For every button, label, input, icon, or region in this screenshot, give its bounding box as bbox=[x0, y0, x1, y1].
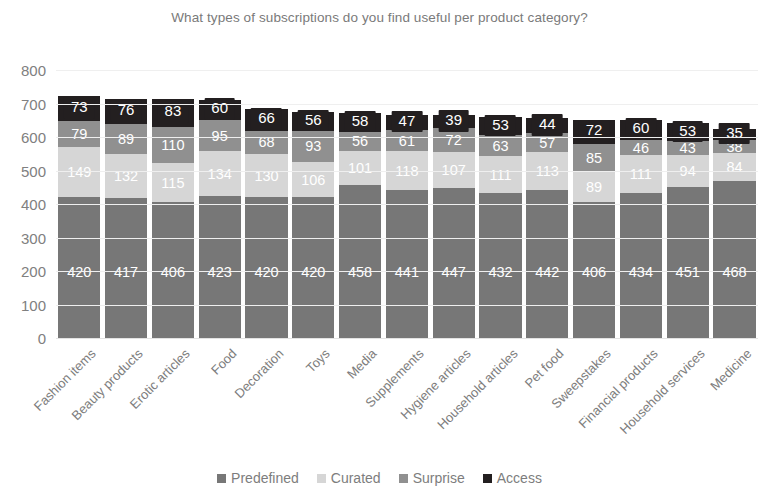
bar-value-label: 134 bbox=[208, 166, 232, 182]
bar-value-label: 79 bbox=[71, 126, 87, 142]
bar-segment-predefined[interactable]: 432 bbox=[479, 193, 521, 338]
bar-segment-curated[interactable]: 106 bbox=[292, 162, 334, 198]
legend-swatch-icon bbox=[399, 474, 408, 483]
bar-segment-surprise[interactable]: 79 bbox=[58, 121, 100, 147]
bar-segment-access[interactable]: 60 bbox=[199, 100, 241, 120]
bar-segment-curated[interactable]: 149 bbox=[58, 147, 100, 197]
legend-label: Access bbox=[497, 470, 542, 486]
bar-value-label: 111 bbox=[489, 167, 511, 183]
y-axis-tick-600: 600 bbox=[21, 129, 46, 146]
bar-value-label: 72 bbox=[446, 132, 462, 148]
bar-segment-predefined[interactable]: 406 bbox=[152, 202, 194, 338]
bar-value-label: 66 bbox=[251, 108, 282, 130]
bar-segment-access[interactable]: 35 bbox=[713, 129, 755, 141]
x-axis-label: Household articles bbox=[434, 346, 520, 432]
y-axis-tick-0: 0 bbox=[38, 330, 46, 347]
legend-item[interactable]: Access bbox=[483, 470, 542, 486]
y-axis-tick-500: 500 bbox=[21, 162, 46, 179]
axis-baseline bbox=[56, 338, 758, 339]
bar-segment-access[interactable]: 47 bbox=[386, 115, 428, 131]
bar-segment-access[interactable]: 58 bbox=[339, 113, 381, 132]
bar-segment-curated[interactable]: 101 bbox=[339, 151, 381, 185]
bar-segment-surprise[interactable]: 93 bbox=[292, 131, 334, 162]
bar-segment-predefined[interactable]: 447 bbox=[433, 188, 475, 338]
bar-segment-surprise[interactable]: 89 bbox=[105, 124, 147, 154]
bar-segment-surprise[interactable]: 85 bbox=[573, 144, 615, 172]
bar-segment-predefined[interactable]: 420 bbox=[58, 197, 100, 338]
legend-item[interactable]: Curated bbox=[317, 470, 381, 486]
bar-value-label: 420 bbox=[301, 264, 325, 280]
bar-segment-access[interactable]: 53 bbox=[667, 123, 709, 141]
bar-segment-predefined[interactable]: 458 bbox=[339, 185, 381, 338]
bar-value-label: 53 bbox=[485, 115, 516, 137]
bar-segment-access[interactable]: 73 bbox=[58, 96, 100, 120]
bar-value-label: 44 bbox=[532, 114, 563, 136]
bar-segment-curated[interactable]: 84 bbox=[713, 153, 755, 181]
bar-segment-access[interactable]: 72 bbox=[573, 120, 615, 144]
bar-segment-surprise[interactable]: 63 bbox=[479, 135, 521, 156]
legend-swatch-icon bbox=[317, 474, 326, 483]
bar-value-label: 115 bbox=[161, 175, 184, 191]
bar-segment-curated[interactable]: 130 bbox=[245, 154, 287, 198]
x-axis-label: Pet food bbox=[522, 346, 567, 391]
bar-value-label: 46 bbox=[633, 140, 649, 156]
x-axis-label: Financial products bbox=[575, 346, 660, 431]
bar-value-label: 406 bbox=[161, 264, 185, 280]
y-axis-tick-200: 200 bbox=[21, 263, 46, 280]
bar-value-label: 47 bbox=[392, 111, 423, 133]
bar-segment-access[interactable]: 44 bbox=[526, 118, 568, 133]
legend-item[interactable]: Predefined bbox=[217, 470, 299, 486]
bar-segment-curated[interactable]: 111 bbox=[479, 156, 521, 193]
legend-item[interactable]: Surprise bbox=[399, 470, 465, 486]
bar-segment-access[interactable]: 39 bbox=[433, 115, 475, 128]
bar-value-label: 423 bbox=[208, 264, 232, 280]
bar-segment-surprise[interactable]: 68 bbox=[245, 131, 287, 154]
bar-segment-predefined[interactable]: 442 bbox=[526, 190, 568, 338]
gridline-400 bbox=[56, 204, 758, 205]
bar-segment-predefined[interactable]: 420 bbox=[292, 197, 334, 338]
bar-value-label: 56 bbox=[352, 133, 368, 149]
bar-segment-surprise[interactable]: 43 bbox=[667, 141, 709, 155]
bar-value-label: 39 bbox=[438, 110, 469, 132]
bar-value-label: 53 bbox=[672, 121, 703, 143]
bar-segment-surprise[interactable]: 56 bbox=[339, 132, 381, 151]
gridline-500 bbox=[56, 171, 758, 172]
bar-segment-predefined[interactable]: 406 bbox=[573, 202, 615, 338]
bar-segment-access[interactable]: 56 bbox=[292, 112, 334, 131]
bar-segment-curated[interactable]: 111 bbox=[620, 155, 662, 192]
x-axis-label: Decoration bbox=[231, 346, 286, 401]
bar-segment-access[interactable]: 53 bbox=[479, 117, 521, 135]
legend-swatch-icon bbox=[483, 474, 492, 483]
bar-segment-curated[interactable]: 134 bbox=[199, 151, 241, 196]
legend-label: Curated bbox=[331, 470, 381, 486]
legend-label: Predefined bbox=[231, 470, 299, 486]
bar-segment-curated[interactable]: 132 bbox=[105, 154, 147, 198]
bar-segment-curated[interactable]: 115 bbox=[152, 163, 194, 202]
stacked-bar-chart: What types of subscriptions do you find … bbox=[0, 0, 759, 492]
bar-segment-surprise[interactable]: 57 bbox=[526, 133, 568, 152]
bar-segment-predefined[interactable]: 451 bbox=[667, 187, 709, 338]
bar-segment-predefined[interactable]: 441 bbox=[386, 190, 428, 338]
bar-value-label: 60 bbox=[204, 98, 235, 120]
bar-segment-predefined[interactable]: 423 bbox=[199, 196, 241, 338]
bar-segment-predefined[interactable]: 434 bbox=[620, 193, 662, 338]
bar-value-label: 85 bbox=[586, 150, 602, 166]
bar-segment-access[interactable]: 66 bbox=[245, 109, 287, 131]
bar-segment-predefined[interactable]: 420 bbox=[245, 197, 287, 338]
bar-value-label: 458 bbox=[348, 264, 372, 280]
bar-segment-curated[interactable]: 89 bbox=[573, 172, 615, 202]
bar-value-label: 106 bbox=[301, 172, 325, 188]
bar-value-label: 149 bbox=[67, 164, 91, 180]
bar-segment-surprise[interactable]: 46 bbox=[620, 140, 662, 155]
bar-segment-surprise[interactable]: 61 bbox=[386, 130, 428, 150]
bar-segment-surprise[interactable]: 72 bbox=[433, 128, 475, 152]
y-axis: 8007006005004003002001000 bbox=[0, 0, 52, 492]
bar-segment-surprise[interactable]: 95 bbox=[199, 120, 241, 152]
bar-value-label: 35 bbox=[719, 123, 750, 145]
bar-segment-predefined[interactable]: 417 bbox=[105, 198, 147, 338]
bar-segment-surprise[interactable]: 110 bbox=[152, 127, 194, 164]
plot-area: 4201497973417132897640611511083423134956… bbox=[57, 0, 759, 338]
bar-value-label: 468 bbox=[722, 264, 746, 280]
bar-value-label: 420 bbox=[67, 264, 91, 280]
y-axis-tick-800: 800 bbox=[21, 62, 46, 79]
